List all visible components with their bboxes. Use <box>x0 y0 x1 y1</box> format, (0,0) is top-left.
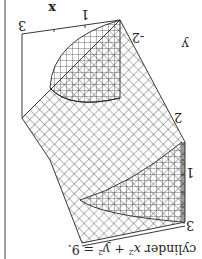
z-tick-2: 2 <box>174 110 182 125</box>
math-figure: 3 1 x -2 y 2 1 3 cylinder x2 + y2 = 9. <box>0 0 202 259</box>
y-axis-label: y <box>181 37 190 52</box>
figure-caption: cylinder x2 + y2 = 9. <box>68 242 197 257</box>
x-tick-1: 1 <box>81 7 89 22</box>
cylinder-upper-surface <box>50 20 120 102</box>
z-tick-1: 1 <box>186 165 194 180</box>
y-tick-neg2: -2 <box>132 30 145 45</box>
x-tick-3: 3 <box>18 18 26 33</box>
x-axis-label: x <box>48 1 56 16</box>
z-tick-3: 3 <box>186 218 194 233</box>
